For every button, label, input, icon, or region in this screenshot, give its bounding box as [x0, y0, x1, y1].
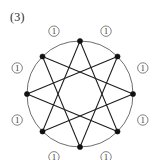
edge-weight-label-v2-v3: 1 [138, 115, 148, 125]
edge-weight-value: 1 [52, 153, 56, 160]
edge-weight-value: 1 [141, 116, 145, 125]
vertex-lower-right [115, 129, 120, 134]
edge-weight-label-v5-v6: 1 [12, 115, 22, 125]
edge-weight-label-v6-v7: 1 [12, 63, 22, 73]
edge-weight-value: 1 [141, 64, 145, 73]
vertex-left [24, 91, 29, 96]
edge-weight-label-v7-v0: 1 [49, 26, 59, 36]
figure-container: (3) 11111111 [0, 0, 158, 160]
vertex-layer [24, 38, 135, 149]
edge-weight-label-v3-v4: 1 [101, 152, 111, 160]
edge-weight-value: 1 [15, 116, 19, 125]
edge-weight-label-v4-v5: 1 [49, 152, 59, 160]
vertex-bottom [77, 144, 82, 149]
vertex-top [77, 38, 82, 43]
edge-weight-label-v1-v2: 1 [138, 63, 148, 73]
vertex-upper-right [115, 54, 120, 59]
edge-weight-value: 1 [104, 27, 108, 36]
edge-weight-value: 1 [104, 153, 108, 160]
edge-weight-label-v0-v1: 1 [101, 26, 111, 36]
vertex-upper-left [40, 54, 45, 59]
vertex-lower-left [40, 129, 45, 134]
graph-diagram: 11111111 [0, 0, 158, 160]
edge-weight-value: 1 [15, 64, 19, 73]
edge-weight-value: 1 [52, 27, 56, 36]
vertex-right [130, 91, 135, 96]
edge-label-layer: 11111111 [12, 26, 148, 160]
